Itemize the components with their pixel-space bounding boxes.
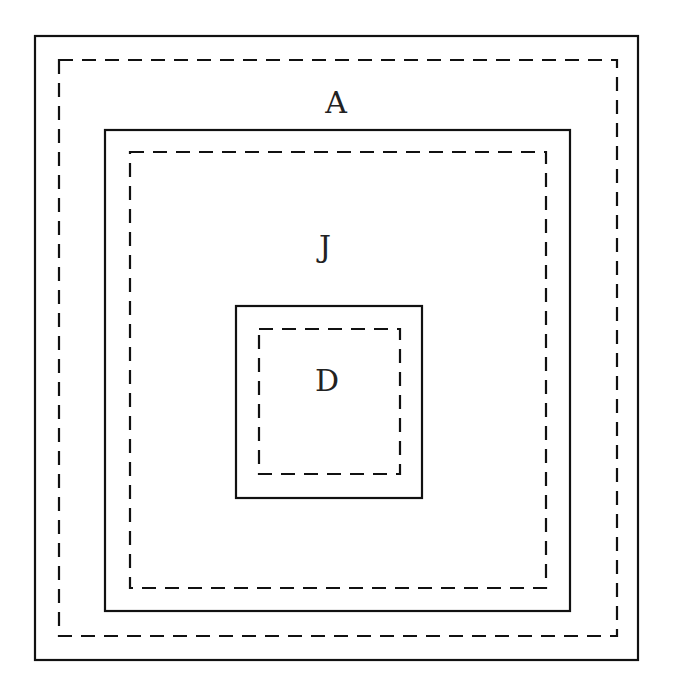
region-a-label: A: [324, 85, 347, 120]
region-d-solid-border: [236, 306, 422, 498]
region-a-dashed-border: [59, 60, 617, 636]
nested-regions-diagram: A J D: [0, 0, 673, 691]
region-j-label: J: [316, 229, 331, 264]
region-d: D: [236, 306, 422, 498]
region-d-label: D: [315, 363, 339, 398]
region-d-dashed-border: [259, 329, 400, 474]
